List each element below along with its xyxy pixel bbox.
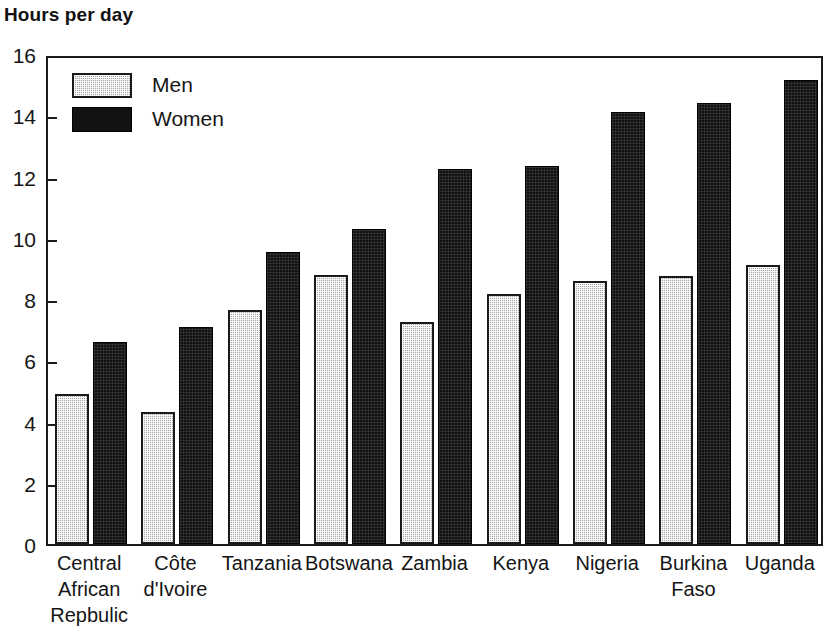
y-axis-tick-mark [46, 424, 57, 426]
y-axis-tick-label: 0 [2, 534, 36, 558]
bar-women [697, 103, 731, 544]
x-axis-category-line: Botswana [305, 550, 391, 576]
bar-men [573, 281, 607, 544]
bar-group [566, 58, 652, 544]
y-axis-tick-mark [46, 117, 57, 119]
x-axis-category-label: Botswana [305, 550, 391, 576]
bar-men [746, 265, 780, 544]
legend-item-men: Men [72, 68, 224, 102]
chart-title: Hours per day [4, 4, 133, 26]
x-axis-category-label: Nigeria [564, 550, 650, 576]
legend-swatch-men [72, 73, 132, 98]
bar-men [141, 412, 175, 544]
x-axis-category-line: Burkina [650, 550, 736, 576]
x-axis-category-line: Repbulic [46, 602, 132, 628]
legend-item-women: Women [72, 102, 224, 136]
bar-women [784, 80, 818, 544]
x-axis-category-line: Kenya [478, 550, 564, 576]
bar-women [179, 327, 213, 544]
bar-women [266, 252, 300, 544]
x-axis-category-line: Zambia [391, 550, 477, 576]
y-axis-tick-label: 4 [2, 412, 36, 436]
x-axis-category-label: Tanzania [219, 550, 305, 576]
x-axis-category-line: Central [46, 550, 132, 576]
chart-legend: MenWomen [72, 68, 224, 136]
bar-group [221, 58, 307, 544]
x-axis-category-label: Uganda [737, 550, 823, 576]
y-axis-tick-label: 8 [2, 289, 36, 313]
legend-label: Women [152, 107, 224, 131]
y-axis-tick-label: 6 [2, 350, 36, 374]
bar-men [487, 294, 521, 544]
y-axis-tick-label: 10 [2, 228, 36, 252]
x-axis-category-line: Uganda [737, 550, 823, 576]
bar-chart: Hours per day 1614121086420 MenWomen Cen… [0, 0, 832, 638]
x-axis-category-label: Kenya [478, 550, 564, 576]
x-axis-category-label: Côted'Ivoire [132, 550, 218, 602]
y-axis-tick-mark [46, 179, 57, 181]
x-axis-category-label: BurkinaFaso [650, 550, 736, 602]
y-axis-tick-label: 14 [2, 105, 36, 129]
x-axis-category-line: Faso [650, 576, 736, 602]
x-axis-labels: CentralAfricanRepbulicCôted'IvoireTanzan… [46, 550, 823, 638]
y-axis-tick-mark [46, 240, 57, 242]
bar-group [393, 58, 479, 544]
y-axis-tick-label: 16 [2, 44, 36, 68]
bar-women [352, 229, 386, 544]
bar-group [480, 58, 566, 544]
x-axis-category-line: Tanzania [219, 550, 305, 576]
bar-women [438, 169, 472, 544]
y-axis-tick-mark [46, 485, 57, 487]
bar-women [525, 166, 559, 544]
x-axis-category-line: d'Ivoire [132, 576, 218, 602]
bar-men [55, 394, 89, 544]
x-axis-category-label: Zambia [391, 550, 477, 576]
bar-group [307, 58, 393, 544]
legend-swatch-women [72, 107, 132, 132]
bar-group [652, 58, 738, 544]
y-axis-tick-mark [46, 362, 57, 364]
x-axis-category-line: African [46, 576, 132, 602]
bar-group [739, 58, 825, 544]
bar-men [400, 322, 434, 544]
bar-men [659, 276, 693, 544]
bar-men [314, 275, 348, 545]
bar-women [93, 342, 127, 544]
y-axis-tick-label: 2 [2, 473, 36, 497]
y-axis-tick-mark [46, 301, 57, 303]
legend-label: Men [152, 73, 193, 97]
x-axis-category-line: Côte [132, 550, 218, 576]
x-axis-category-line: Nigeria [564, 550, 650, 576]
y-axis-tick-label: 12 [2, 167, 36, 191]
bar-men [228, 310, 262, 544]
x-axis-category-label: CentralAfricanRepbulic [46, 550, 132, 628]
bar-women [611, 112, 645, 544]
